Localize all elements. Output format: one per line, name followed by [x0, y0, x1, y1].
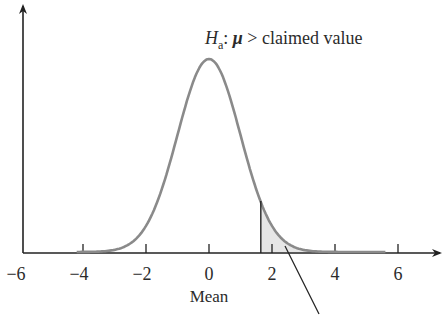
mu-symbol: μ	[232, 28, 243, 48]
hyp-rest: > claimed value	[243, 28, 363, 48]
x-tick-label: 2	[268, 264, 277, 284]
normal-distribution-chart: −6−4−20246 Ha: μ > claimed value Mean	[0, 0, 448, 329]
normal-curve	[77, 59, 386, 252]
x-tick-label: −4	[69, 264, 88, 284]
x-axis-title: Mean	[190, 287, 229, 306]
x-axis-ticks: −6−4−20246	[6, 244, 402, 284]
x-tick-label: 0	[205, 264, 214, 284]
x-tick-label: −2	[132, 264, 151, 284]
x-tick-label: −6	[6, 264, 25, 284]
hyp-colon: :	[223, 28, 233, 48]
alternative-hypothesis-label: Ha: μ > claimed value	[204, 28, 362, 52]
pointer-line	[285, 246, 319, 314]
hyp-symbol: H	[204, 28, 219, 48]
rejection-region-shade	[261, 202, 386, 252]
x-tick-label: 4	[331, 264, 340, 284]
x-tick-label: 6	[394, 264, 403, 284]
